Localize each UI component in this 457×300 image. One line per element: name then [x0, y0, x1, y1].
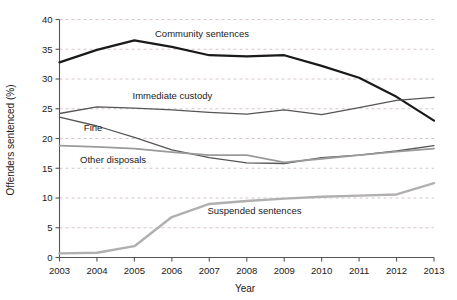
chart-canvas: 0510152025303540 20032004200520062007200…: [0, 0, 457, 300]
series-label: Suspended sentences: [207, 205, 301, 216]
x-tick-labels: 2003200420052006200720082009201020112012…: [49, 258, 445, 276]
x-tick-label: 2013: [423, 265, 444, 276]
data-series: [60, 40, 435, 253]
x-tick-label: 2005: [124, 265, 145, 276]
gridlines: [60, 20, 435, 228]
y-tick-label: 30: [42, 73, 53, 84]
series-line: [60, 183, 435, 253]
y-tick-label: 20: [42, 133, 53, 144]
y-tick-label: 35: [42, 44, 53, 55]
series-label: Community sentences: [155, 28, 249, 39]
series-label: Other disposals: [80, 154, 146, 165]
x-tick-label: 2011: [349, 265, 369, 276]
series-label: Fine: [84, 122, 102, 133]
x-tick-label: 2003: [49, 265, 70, 276]
y-tick-label: 10: [42, 192, 53, 203]
x-tick-label: 2004: [86, 265, 107, 276]
y-tick-label: 15: [42, 163, 53, 174]
x-tick-label: 2008: [236, 265, 257, 276]
x-axis-title: Year: [235, 283, 256, 294]
y-tick-labels: 0510152025303540: [42, 14, 60, 263]
line-chart: 0510152025303540 20032004200520062007200…: [0, 0, 457, 300]
x-tick-label: 2010: [311, 265, 332, 276]
x-tick-label: 2007: [199, 265, 220, 276]
series-line: [60, 97, 435, 114]
y-axis-title: Offenders sentenced (%): [5, 85, 16, 196]
series-label: Immediate custody: [133, 90, 213, 101]
y-tick-label: 40: [42, 14, 53, 25]
y-tick-label: 5: [47, 222, 52, 233]
y-tick-label: 25: [42, 103, 53, 114]
y-tick-label: 0: [47, 252, 52, 263]
x-tick-label: 2006: [161, 265, 182, 276]
x-tick-label: 2012: [386, 265, 407, 276]
x-tick-label: 2009: [274, 265, 295, 276]
